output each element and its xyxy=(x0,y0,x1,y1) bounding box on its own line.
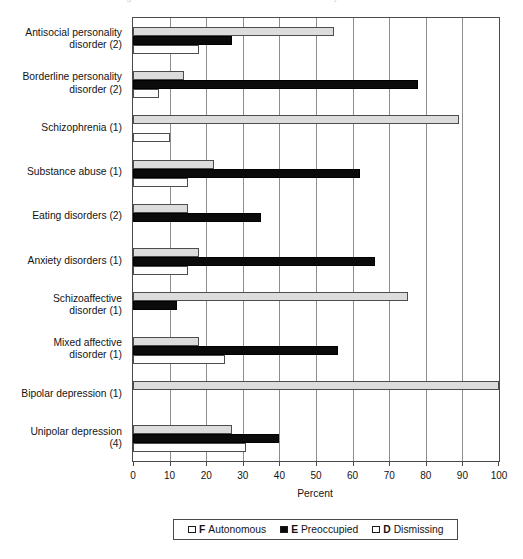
plot-area: Antisocial personality disorder (2)Borde… xyxy=(0,12,523,517)
x-axis-tick-label: 10 xyxy=(164,470,175,481)
category-label-5: Eating disorders (2) xyxy=(0,210,122,222)
bar-e-7 xyxy=(133,301,177,310)
bar-e-2 xyxy=(133,80,418,89)
bar-f-1 xyxy=(133,45,199,54)
gridline xyxy=(426,18,427,461)
bar-e-8 xyxy=(133,346,338,355)
category-label-9: Bipolar depression (1) xyxy=(0,388,122,400)
x-axis-tick xyxy=(498,461,499,466)
x-axis-title: Percent xyxy=(132,488,498,499)
legend-item-e: EPreoccupied xyxy=(280,524,358,535)
x-axis-tick xyxy=(279,461,280,466)
x-axis-tick xyxy=(353,461,354,466)
x-axis-tick-label: 80 xyxy=(420,470,431,481)
bar-d-5 xyxy=(133,204,188,213)
legend-code: F xyxy=(199,524,205,535)
category-label-8: Mixed affective disorder (1) xyxy=(0,337,122,361)
x-axis-tick xyxy=(316,461,317,466)
x-axis-tick xyxy=(389,461,390,466)
x-axis-tick xyxy=(170,461,171,466)
category-label-4: Substance abuse (1) xyxy=(0,166,122,178)
category-label-7: Schizoaffective disorder (1) xyxy=(0,293,122,317)
x-axis-tick-label: 100 xyxy=(491,470,508,481)
legend-swatch-f-icon xyxy=(188,526,196,534)
chart-axes: 0102030405060708090100 xyxy=(132,17,500,462)
bar-d-7 xyxy=(133,292,408,301)
bar-e-6 xyxy=(133,257,375,266)
bar-e-4 xyxy=(133,169,360,178)
x-axis-tick xyxy=(426,461,427,466)
bar-d-4 xyxy=(133,160,214,169)
bar-e-5 xyxy=(133,213,261,222)
bar-f-4 xyxy=(133,178,188,187)
bar-e-1 xyxy=(133,36,232,45)
x-axis-tick-label: 90 xyxy=(457,470,468,481)
bar-f-2 xyxy=(133,89,159,98)
bar-f-10 xyxy=(133,443,246,452)
bar-f-3 xyxy=(133,133,170,142)
x-axis-tick-label: 70 xyxy=(384,470,395,481)
category-axis-labels: Antisocial personality disorder (2)Borde… xyxy=(0,17,126,460)
category-label-2: Borderline personality disorder (2) xyxy=(0,71,122,95)
x-axis-tick xyxy=(243,461,244,466)
cropped-caption-strip: Figure 1. Attachment classification dist… xyxy=(0,0,523,12)
x-axis-tick-label: 50 xyxy=(310,470,321,481)
bar-d-8 xyxy=(133,337,199,346)
legend-code: D xyxy=(383,524,390,535)
gridline xyxy=(462,18,463,461)
x-axis-tick-label: 40 xyxy=(274,470,285,481)
legend-label: Dismissing xyxy=(394,524,444,535)
x-axis-tick-label: 20 xyxy=(201,470,212,481)
legend-swatch-d-icon xyxy=(372,526,380,534)
x-axis-tick-label: 60 xyxy=(347,470,358,481)
legend-code: E xyxy=(291,524,298,535)
bar-d-6 xyxy=(133,248,199,257)
cropped-caption-text: Figure 1. Attachment classification dist… xyxy=(118,0,377,2)
x-axis-tick xyxy=(462,461,463,466)
legend-item-f: FAutonomous xyxy=(188,524,266,535)
x-axis-tick xyxy=(206,461,207,466)
figure-container: Figure 1. Attachment classification dist… xyxy=(0,0,523,559)
category-label-1: Antisocial personality disorder (2) xyxy=(0,27,122,51)
bar-d-2 xyxy=(133,71,184,80)
chart-legend: FAutonomousEPreoccupiedDDismissing xyxy=(173,519,458,540)
bar-d-10 xyxy=(133,425,232,434)
x-axis-tick-label: 30 xyxy=(237,470,248,481)
legend-label: Autonomous xyxy=(208,524,266,535)
bar-d-1 xyxy=(133,27,334,36)
bar-f-8 xyxy=(133,355,225,364)
bar-e-10 xyxy=(133,434,279,443)
x-axis-tick-label: 0 xyxy=(130,470,136,481)
bar-d-9 xyxy=(133,381,499,390)
bar-f-6 xyxy=(133,266,188,275)
legend-label: Preoccupied xyxy=(301,524,358,535)
legend-swatch-e-icon xyxy=(280,526,288,534)
category-label-3: Schizophrenia (1) xyxy=(0,122,122,134)
category-label-10: Unipolar depression (4) xyxy=(0,426,122,450)
x-axis-tick xyxy=(133,461,134,466)
category-label-6: Anxiety disorders (1) xyxy=(0,255,122,267)
bar-d-3 xyxy=(133,115,459,124)
legend-item-d: DDismissing xyxy=(372,524,443,535)
